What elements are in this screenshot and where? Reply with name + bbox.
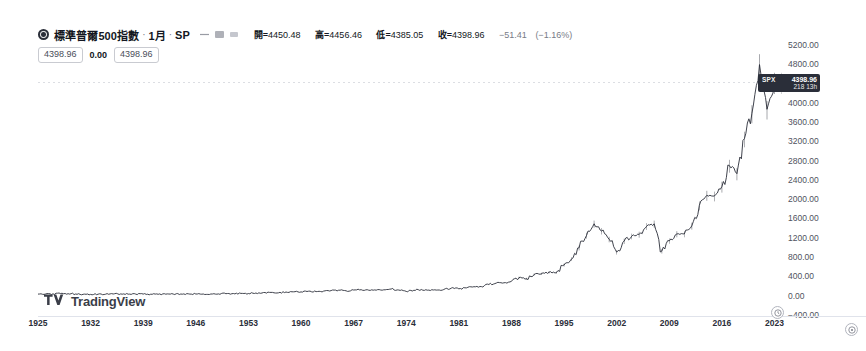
tradingview-chart-screenshot: 標準普爾500指數 · 1月 · SP 開=4450.48 高=4456.46 … — [0, 0, 866, 351]
time-axis-label: 2023 — [765, 318, 784, 328]
price-axis-label: 400.00 — [788, 271, 814, 281]
price-series — [38, 34, 782, 314]
time-axis-label: 1932 — [81, 318, 100, 328]
time-axis-label: 1988 — [502, 318, 521, 328]
price-axis-label: 2800.00 — [788, 156, 819, 166]
price-axis-label: 1600.00 — [788, 213, 819, 223]
settings-clock-icon[interactable] — [845, 323, 858, 336]
price-axis-label: 1200.00 — [788, 233, 819, 243]
axis-divider — [38, 316, 866, 317]
badge-symbol: SPX — [762, 76, 776, 83]
time-axis-label: 1960 — [292, 318, 311, 328]
price-axis-label: 4800.00 — [788, 59, 819, 69]
time-axis-label: 1953 — [239, 318, 258, 328]
time-axis-label: 1981 — [449, 318, 468, 328]
price-axis-label: 2400.00 — [788, 175, 819, 185]
timezone-clock-icon[interactable] — [771, 306, 784, 319]
price-axis-label: 3200.00 — [788, 136, 819, 146]
price-line — [38, 65, 782, 295]
price-axis-label: 3600.00 — [788, 117, 819, 127]
chart-plot-area[interactable] — [38, 34, 782, 314]
time-axis-label: 2009 — [660, 318, 679, 328]
tradingview-watermark: TradingView — [44, 292, 145, 310]
price-reference-line — [38, 82, 782, 83]
price-axis-label: 2000.00 — [788, 194, 819, 204]
price-axis-label: 4000.00 — [788, 98, 819, 108]
tradingview-wordmark: TradingView — [71, 294, 145, 309]
time-axis[interactable]: 1925193219391946195319601967197419811988… — [0, 318, 866, 338]
price-axis-label: 800.00 — [788, 252, 814, 262]
tradingview-bolt-icon — [44, 292, 66, 310]
price-axis[interactable]: SPX 4398.96 218 13h 5200.004800.004000.0… — [788, 24, 866, 324]
time-axis-label: 2002 — [607, 318, 626, 328]
time-axis-label: 1967 — [344, 318, 363, 328]
time-axis-label: 1939 — [134, 318, 153, 328]
price-axis-label: 0.00 — [788, 291, 805, 301]
time-axis-label: 1925 — [29, 318, 48, 328]
time-axis-label: 2016 — [712, 318, 731, 328]
price-axis-label: 5200.00 — [788, 40, 819, 50]
time-axis-label: 1946 — [186, 318, 205, 328]
current-price-badge: SPX 4398.96 218 13h — [758, 74, 820, 92]
badge-countdown: 218 13h — [762, 83, 817, 90]
time-axis-label: 1995 — [555, 318, 574, 328]
badge-price: 4398.96 — [792, 76, 817, 83]
time-axis-label: 1974 — [397, 318, 416, 328]
